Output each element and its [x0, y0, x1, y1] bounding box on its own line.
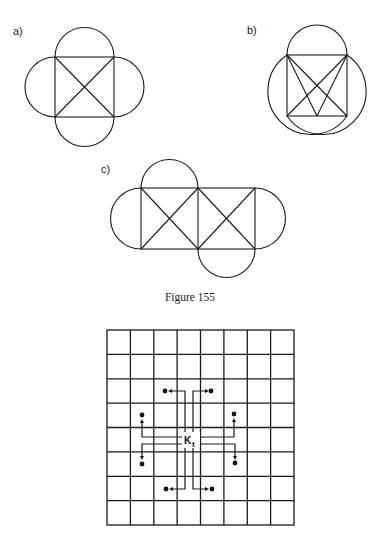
figure-a-bottom-arc — [55, 117, 114, 147]
arrow-up-icon — [140, 419, 144, 423]
figure-b-line-to-midpoint — [287, 55, 317, 116]
figure-canvas: K t a) b) c) Figure 155 — [0, 0, 374, 542]
target-dot — [209, 389, 214, 394]
knight-path-right-down — [200, 444, 235, 458]
target-dot — [210, 487, 215, 492]
arrow-left-icon — [168, 389, 172, 393]
figure-c-right-arc — [255, 188, 285, 249]
target-dot — [163, 389, 168, 394]
figure-a-left-arc — [25, 57, 55, 117]
figure-c-label: c) — [101, 163, 110, 175]
arrow-down-icon — [140, 456, 144, 460]
figure-c-bottom-arc — [198, 249, 255, 278]
chessboard-grid — [107, 330, 294, 525]
arrow-left-icon — [169, 487, 173, 491]
figure-c — [111, 160, 286, 278]
knight-label: K — [184, 435, 192, 446]
arrow-right-icon — [205, 389, 209, 393]
figure-b-label: b) — [247, 24, 257, 36]
arrow-right-icon — [205, 487, 209, 491]
knight-path-left-down — [142, 444, 182, 458]
target-dot — [140, 462, 145, 467]
figure-caption: Figure 155 — [165, 291, 215, 304]
figure-b-line-to-midpoint — [317, 55, 347, 116]
figure-a-top-arc — [55, 28, 114, 58]
target-dot — [233, 461, 238, 466]
target-dot — [164, 487, 169, 492]
knight-label-subscript: t — [192, 440, 195, 449]
target-dot — [140, 413, 145, 418]
target-dot — [232, 412, 237, 417]
figure-c-top-arc — [141, 160, 198, 189]
arrow-up-icon — [232, 418, 236, 422]
knight-path-left-up — [142, 421, 182, 437]
arrow-down-icon — [233, 456, 237, 460]
knight-path-right-up — [200, 420, 234, 437]
figure-a-label: a) — [13, 25, 23, 37]
knight-path-down-left — [171, 448, 185, 489]
figure-b-top-arc — [287, 25, 347, 55]
figure-a-right-arc — [114, 57, 144, 117]
figure-b — [268, 25, 366, 135]
figure-a — [25, 28, 144, 147]
figure-c-left-arc — [111, 188, 141, 249]
